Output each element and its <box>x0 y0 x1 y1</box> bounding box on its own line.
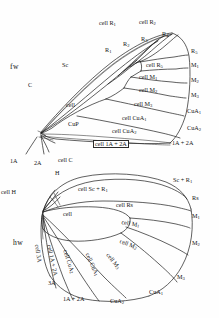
forewing-cell-r5-label: cell R5 <box>146 62 163 69</box>
forewing-vein-r5-label: R5 <box>191 48 197 55</box>
wing-venation-figure: fw cell R1 cell R2 C Sc R1 R2 R3 R4 R5 M… <box>0 0 219 318</box>
forewing-cell-1a2a-label: cell 1A + 2A <box>93 140 129 148</box>
hindwing-vein-3a-label: 3A <box>48 280 56 286</box>
hindwing-vein-h-label: H <box>55 170 59 176</box>
forewing-vein-cup-label: CuP <box>68 121 79 127</box>
forewing-cell-r2-label: cell R2 <box>139 19 156 26</box>
hindwing-vein-m3-label: M3 <box>177 274 185 281</box>
forewing-vein-1a2a-label: 1A + 2A <box>172 140 193 146</box>
hindwing-vein-m2-label: M2 <box>192 240 200 247</box>
hindwing-vein-1a2a-label: 1A + 2A <box>63 296 84 302</box>
hindwing-vein-rs-label: Rs <box>192 195 199 201</box>
forewing-cell-r1-label: cell R1 <box>99 20 116 27</box>
forewing-vein-cua1-label: CuA1 <box>187 108 201 115</box>
forewing-vein-m3-label: M3 <box>191 92 199 99</box>
forewing-cell-m3-label: cell M3 <box>134 101 152 108</box>
forewing-discal-cell-label: cell <box>66 102 75 108</box>
forewing-vein-cua2-label: CuA2 <box>187 125 201 132</box>
hindwing-vein-m1-label: M1 <box>192 213 200 220</box>
hindwing-tag: hw <box>13 239 23 247</box>
hindwing-cell-3a-label: cell 3A <box>34 244 43 263</box>
hindwing-cell-h-label: cell H <box>1 189 16 195</box>
forewing-vein-sc-label: Sc <box>62 62 68 68</box>
hindwing-cell-scr1-label: cell Sc + R1 <box>78 186 108 193</box>
forewing-vein-m1-label: M1 <box>191 62 199 69</box>
forewing-vein-r4-label: R4 <box>162 31 168 38</box>
forewing-cell-m1-label: cell M1 <box>139 74 157 81</box>
forewing-vein-c-label: C <box>28 82 32 88</box>
hindwing-cell-c-label: cell C <box>58 157 73 163</box>
forewing-vein-r3-label: R3 <box>141 36 147 43</box>
forewing-cell-cua2-label: cell CuA2 <box>112 128 136 135</box>
forewing-vein-r1-label: R1 <box>105 47 111 54</box>
forewing-vein-r2-label: R2 <box>123 41 129 48</box>
hindwing-vein-scr1-label: Sc + R1 <box>173 177 192 184</box>
forewing-vein-m2-label: M2 <box>191 77 199 84</box>
forewing-tag: fw <box>10 63 19 71</box>
hindwing-vein-cua1-label: CuA1 <box>149 289 163 296</box>
hindwing-outline <box>41 174 192 302</box>
hindwing-discal-cell-label: cell <box>63 211 72 217</box>
forewing-cell-cua1-label: cell CuA1 <box>122 115 146 122</box>
forewing-vein-1a-label: 1A <box>10 158 18 164</box>
forewing-vein-2a-label: 2A <box>34 160 42 166</box>
hindwing-cell-rs-label: cell Rs <box>116 202 133 208</box>
hindwing-veins <box>42 179 192 301</box>
forewing-cell-m2-label: cell M2 <box>139 87 157 94</box>
hindwing-vein-cua2-label: CuA2 <box>110 298 124 305</box>
